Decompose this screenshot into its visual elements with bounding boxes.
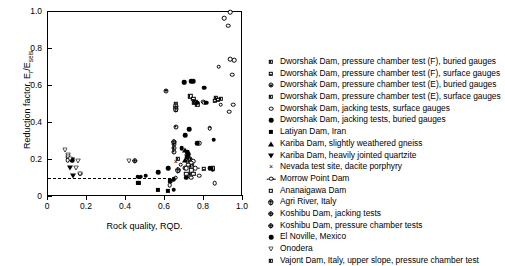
data-point — [182, 80, 187, 85]
y-axis-title-main: Reduction factor, E — [22, 73, 32, 149]
data-point: × — [173, 159, 178, 164]
data-point — [191, 172, 195, 176]
legend-item-label: Dworshak Dam, pressure chamber test (E),… — [280, 79, 496, 91]
data-point — [182, 166, 187, 171]
data-point — [136, 181, 140, 185]
marker-half-square-horizontal — [269, 71, 273, 75]
data-point — [191, 79, 196, 84]
legend-item[interactable]: Dworshak Dam, pressure chamber test (E),… — [262, 91, 505, 103]
marker-circle-whiskers — [269, 177, 274, 182]
data-point — [171, 149, 176, 154]
legend: Dworshak Dam, pressure chamber test (F),… — [262, 56, 505, 266]
plot-frame: ××× — [47, 11, 242, 196]
annotation-layer — [48, 12, 241, 195]
legend-marker-open-square-icon — [262, 185, 280, 197]
marker-filled-square — [269, 130, 273, 134]
data-point — [232, 58, 237, 63]
data-point — [171, 139, 176, 144]
legend-item[interactable]: Dworshak Dam, pressure chamber test (F),… — [262, 68, 505, 80]
data-point — [171, 139, 176, 144]
data-point — [202, 86, 207, 91]
legend-item[interactable]: Kariba Dam, heavily jointed quartzite — [262, 150, 505, 162]
marker-half-square-vertical — [269, 60, 273, 64]
data-point — [156, 170, 161, 175]
data-point — [195, 141, 200, 146]
legend-item[interactable]: Koshibu Dam, jacking tests — [262, 208, 505, 220]
data-point — [230, 73, 235, 78]
y-tick-mark — [47, 122, 52, 123]
data-point — [204, 100, 209, 105]
y-axis-title-mid: /E — [22, 62, 32, 71]
data-point — [218, 97, 222, 101]
legend-item[interactable]: El Noville, Mexico — [262, 231, 505, 243]
legend-marker-open-circle-icon — [262, 103, 280, 115]
data-point: × — [190, 164, 195, 169]
data-point — [231, 102, 236, 107]
data-point — [126, 158, 131, 163]
x-tick-label: 0.8 — [188, 202, 218, 211]
data-point — [68, 156, 73, 161]
data-point — [163, 88, 168, 93]
data-point — [66, 155, 71, 160]
y-axis-title: Reduction factor, Er/Eseis — [22, 20, 34, 180]
legend-item[interactable]: Morrow Point Dam — [262, 173, 505, 185]
data-point — [212, 181, 217, 186]
legend-item[interactable]: Ananaigawa Dam — [262, 185, 505, 197]
data-point — [166, 166, 171, 171]
legend-item[interactable]: Agri River, Italy — [262, 196, 505, 208]
data-point — [175, 157, 179, 161]
marker-filled-triangle-up — [268, 141, 274, 146]
legend-item[interactable]: Dworshak Dam, jacking tests, buried gaug… — [262, 114, 505, 126]
data-point — [143, 173, 148, 178]
y-tick-mark — [47, 85, 52, 86]
marker-open-triangle-down — [268, 246, 273, 251]
data-point — [216, 64, 221, 69]
data-point — [76, 158, 81, 163]
legend-item[interactable]: Onodera — [262, 243, 505, 255]
legend-item-label: Kariba Dam, heavily jointed quartzite — [280, 150, 416, 162]
legend-item[interactable]: Latiyan Dam, Iran — [262, 126, 505, 138]
data-point — [191, 159, 196, 164]
marker-square-half-right — [269, 95, 273, 99]
data-point — [171, 145, 176, 150]
legend-item[interactable]: Vajont Dam, Italy, upper slope, pressure… — [262, 255, 505, 266]
data-point — [175, 167, 180, 172]
data-point — [70, 158, 75, 163]
legend-item-label: Vajont Dam, Italy, upper slope, pressure… — [280, 255, 479, 266]
legend-marker-square-half-filled-icon — [262, 255, 280, 266]
data-point — [182, 158, 188, 163]
legend-item-label: Agri River, Italy — [280, 196, 336, 208]
data-point — [168, 183, 173, 188]
data-point — [189, 79, 194, 84]
data-point — [210, 167, 215, 172]
legend-marker-filled-triangle-up-icon — [262, 138, 280, 150]
marker-filled-circle — [269, 118, 274, 123]
data-point — [188, 157, 193, 162]
legend-item[interactable]: Kariba Dam, slightly weathered gneiss — [262, 138, 505, 150]
legend-item[interactable]: Dworshak Dam, pressure chamber test (F),… — [262, 56, 505, 68]
legend-item[interactable]: ×Nevada test site, dacite porphyry — [262, 161, 505, 173]
y-axis-title-sub-r: r — [27, 71, 34, 73]
data-point — [179, 146, 184, 151]
data-point — [70, 173, 76, 178]
legend-item[interactable]: Dworshak Dam, pressure chamber test (E),… — [262, 79, 505, 91]
data-point — [208, 126, 213, 131]
legend-item-label: Dworshak Dam, jacking tests, buried gaug… — [280, 114, 446, 126]
y-tick-mark — [47, 159, 52, 160]
marker-circle-plus-small — [268, 211, 273, 216]
y-axis-title-sub-seis: seis — [27, 51, 34, 63]
data-point — [193, 166, 198, 171]
data-point — [202, 100, 207, 105]
data-point — [181, 80, 186, 85]
marker-circle-half — [268, 223, 273, 228]
data-point — [171, 142, 176, 147]
legend-item[interactable]: Koshibu Dam, pressure chamber tests — [262, 220, 505, 232]
data-point — [137, 181, 141, 185]
threshold-dashed-line — [48, 178, 171, 179]
legend-item[interactable]: Dworshak Dam, jacking tests, surface gau… — [262, 103, 505, 115]
data-point — [188, 94, 192, 98]
data-point — [173, 106, 178, 111]
data-point — [182, 147, 188, 152]
legend-item-label: Dworshak Dam, pressure chamber test (F),… — [280, 68, 500, 80]
